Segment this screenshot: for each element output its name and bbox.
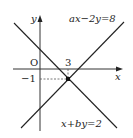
y-axis-arrow-icon xyxy=(38,15,43,22)
origin-label: O xyxy=(30,57,38,68)
x-axis-label: x xyxy=(115,71,121,82)
y-axis-label: y xyxy=(30,13,37,24)
equation-label-descending: x+by=2 xyxy=(61,118,102,129)
line-ax-minus-2y-eq-8 xyxy=(21,22,124,128)
coordinate-diagram: y x O 3 −1 ax−2y=8 x+by=2 xyxy=(0,0,133,138)
equation-label-ascending: ax−2y=8 xyxy=(69,13,116,24)
graph-canvas: y x O 3 −1 ax−2y=8 x+by=2 xyxy=(0,0,133,138)
y-tick-label: −1 xyxy=(21,73,36,84)
x-tick-label: 3 xyxy=(65,57,71,68)
intersection-point xyxy=(66,77,70,81)
